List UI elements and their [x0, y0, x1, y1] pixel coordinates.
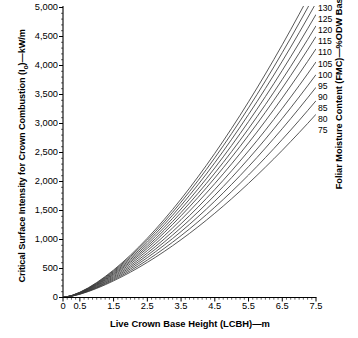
x-tick-label: 4.5 [208, 302, 221, 311]
curve-fmc-95 [63, 62, 316, 298]
x-axis-title: Live Crown Base Height (LCBH)—m [62, 318, 318, 329]
x-tick-label: 5.5 [242, 302, 255, 311]
curve-fmc-120 [63, 3, 316, 297]
y-axis-title: Critical Surface Intensity for Crown Com… [17, 11, 29, 301]
right-axis-title: Foliar Moisture Content (FMC)—%ODW Basis [334, 0, 344, 215]
x-tick-labels: 00.51.52.53.54.55.56.57.5 [0, 302, 358, 316]
curve-fmc-85 [63, 87, 316, 297]
y-axis-title-subscript: o [22, 65, 29, 69]
curve-group [63, 0, 316, 297]
curve-fmc-110 [63, 26, 316, 298]
chart-figure: 05001,0001,5002,0002,5003,0003,5004,0004… [0, 0, 358, 338]
x-tick-label: 6.5 [276, 302, 289, 311]
x-tick-label: 0 [60, 302, 65, 311]
x-tick-label: 0.5 [73, 302, 86, 311]
y-axis-title-suffix: )—kW/m [17, 29, 27, 65]
axis-group [59, 6, 317, 302]
curve-fmc-130 [63, 0, 316, 297]
y-axis-title-prefix: Critical Surface Intensity for Crown Com… [17, 70, 27, 283]
curve-fmc-75 [63, 114, 316, 297]
x-tick-label: 3.5 [175, 302, 188, 311]
x-tick-label: 1.5 [107, 302, 120, 311]
x-tick-label: 7.5 [310, 302, 323, 311]
x-tick-label: 2.5 [141, 302, 154, 311]
curve-fmc-90 [63, 75, 316, 298]
curve-fmc-125 [63, 0, 316, 298]
curve-fmc-115 [63, 14, 316, 297]
curve-fmc-105 [63, 37, 316, 298]
